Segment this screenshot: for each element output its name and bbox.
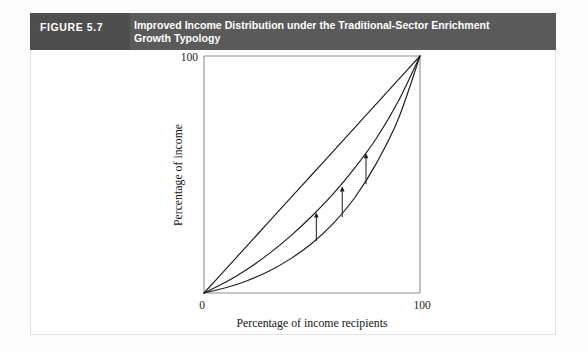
x-axis-tick-100: 100: [413, 299, 431, 311]
improvement-arrow-2-head: [340, 186, 345, 191]
figure-header-band: FIGURE 5.7 Improved Income Distribution …: [30, 13, 556, 50]
chart-plot-area: 100 0 100 Percentage of income recipient…: [30, 50, 556, 335]
improvement-arrows-group: [314, 153, 368, 241]
lorenz-curve-chart: 100 0 100 Percentage of income recipient…: [30, 50, 556, 335]
figure-title: Improved Income Distribution under the T…: [134, 19, 544, 46]
figure-title-line-1: Improved Income Distribution under the T…: [134, 19, 490, 31]
figure-title-cell: Improved Income Distribution under the T…: [130, 13, 556, 50]
y-axis-tick-100: 100: [181, 51, 199, 63]
x-axis-tick-0: 0: [199, 299, 205, 311]
figure-root: FIGURE 5.7 Improved Income Distribution …: [0, 0, 588, 352]
y-axis-title: Percentage of income: [171, 124, 185, 226]
figure-title-line-2: Growth Typology: [134, 32, 220, 44]
x-axis-title: Percentage of income recipients: [237, 316, 388, 330]
figure-number-cell: FIGURE 5.7: [30, 13, 130, 50]
series-line-1: [204, 56, 420, 293]
figure-number-label: FIGURE 5.7: [40, 21, 103, 33]
chart-series-group: [204, 56, 420, 293]
